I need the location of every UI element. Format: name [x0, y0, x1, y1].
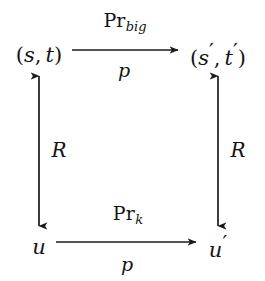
comma: , — [214, 46, 225, 70]
label-right-edge: R — [230, 140, 245, 160]
node-top-right: (s′, t′) — [190, 41, 246, 69]
node-top-right-t: t — [225, 46, 233, 70]
label-pr-text: Pr — [113, 202, 135, 224]
paren-close: ) — [54, 43, 62, 67]
commutative-diagram: (s, t) (s′, t′) u u′ Prbig p Prk p R R — [0, 0, 265, 281]
node-bottom-right: u′ — [209, 233, 227, 261]
label-top-edge-above: Prbig — [103, 11, 146, 33]
node-bottom-left: u — [32, 237, 46, 258]
label-p-text: p — [118, 59, 130, 81]
label-p-text: p — [121, 253, 133, 275]
prime-icon: ′ — [222, 231, 227, 255]
comma: , — [35, 43, 46, 67]
paren-close: ) — [238, 46, 246, 70]
label-pr-text: Pr — [103, 9, 125, 31]
paren-open: ( — [190, 46, 198, 70]
node-top-right-s: s — [198, 46, 209, 70]
label-bottom-edge-above: Prk — [113, 204, 143, 226]
label-left-edge: R — [51, 140, 66, 160]
node-top-left: (s, t) — [16, 45, 63, 66]
node-bottom-right-u: u — [209, 238, 223, 262]
label-r-text: R — [51, 138, 66, 162]
node-bottom-left-u: u — [32, 235, 46, 259]
paren-open: ( — [16, 43, 24, 67]
label-pr-subscript: k — [135, 212, 143, 227]
label-bottom-edge-below: p — [121, 255, 133, 274]
label-pr-subscript: big — [126, 19, 147, 34]
label-top-edge-below: p — [118, 61, 130, 80]
node-top-left-s: s — [24, 43, 35, 67]
label-r-text: R — [230, 138, 245, 162]
